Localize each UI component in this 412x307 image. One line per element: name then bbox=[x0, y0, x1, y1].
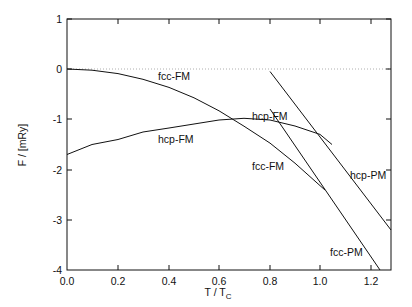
plot-frame bbox=[67, 19, 391, 270]
y-tick-label: 1 bbox=[56, 13, 62, 25]
label-fcc-pm: fcc-PM bbox=[330, 246, 363, 258]
x-ticks bbox=[118, 19, 371, 270]
y-tick-label: -2 bbox=[53, 164, 62, 176]
free-energy-chart: 1 0 -1 -2 -3 -4 0.0 0.2 0.4 0.6 0.8 1.0 … bbox=[0, 0, 412, 307]
y-tick-label: 0 bbox=[56, 63, 62, 75]
label-hcp-fm-lower: hcp-FM bbox=[158, 133, 194, 145]
x-tick-label: 0.8 bbox=[263, 275, 278, 287]
x-tick-label: 0.2 bbox=[111, 275, 126, 287]
hcp-pm-line bbox=[270, 72, 391, 231]
y-axis-title: F / [mRy] bbox=[16, 124, 28, 167]
x-axis-title: T / TC bbox=[205, 286, 232, 301]
fcc-pm-line bbox=[270, 109, 380, 270]
curves bbox=[67, 69, 391, 270]
label-fcc-fm-lower: fcc-FM bbox=[252, 160, 284, 172]
y-tick-label: -1 bbox=[53, 113, 62, 125]
x-tick-label: 1.0 bbox=[313, 275, 328, 287]
x-tick-label: 0.4 bbox=[162, 275, 177, 287]
label-hcp-fm-upper: hcp-FM bbox=[252, 110, 288, 122]
y-tick-label: -3 bbox=[53, 214, 62, 226]
x-tick-label: 0.0 bbox=[60, 275, 75, 287]
label-fcc-fm-upper: fcc-FM bbox=[158, 70, 190, 82]
fcc-fm-curve bbox=[67, 69, 325, 190]
label-hcp-pm: hcp-PM bbox=[350, 169, 386, 181]
y-tick-labels: 1 0 -1 -2 -3 -4 bbox=[53, 13, 63, 276]
hcp-fm-curve bbox=[67, 118, 332, 154]
x-tick-label: 1.2 bbox=[364, 275, 379, 287]
